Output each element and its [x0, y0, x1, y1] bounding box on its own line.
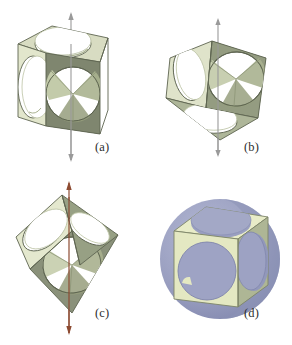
cube-holes-diagram-a — [0, 0, 146, 172]
cube-face-front-b — [204, 41, 268, 118]
cube-sphere-diagram-d — [146, 173, 292, 345]
cube-holes-diagram-b — [146, 0, 292, 172]
panel-label-b: (b) — [244, 140, 259, 155]
panel-c: (c) — [0, 173, 146, 345]
panel-label-a: (a) — [95, 140, 109, 155]
panel-b: (b) — [146, 0, 292, 172]
figure-panel-grid: (a) — [0, 0, 292, 345]
panel-label-d: (d) — [244, 306, 259, 321]
cube-face-left-b — [166, 41, 212, 108]
panel-a: (a) — [0, 0, 146, 172]
cube-face-front-d — [174, 231, 238, 307]
cube-face-front-a — [46, 53, 102, 134]
panel-d: (d) — [146, 173, 292, 345]
panel-label-c: (c) — [95, 306, 109, 321]
cube-holes-diagram-c — [0, 173, 146, 345]
